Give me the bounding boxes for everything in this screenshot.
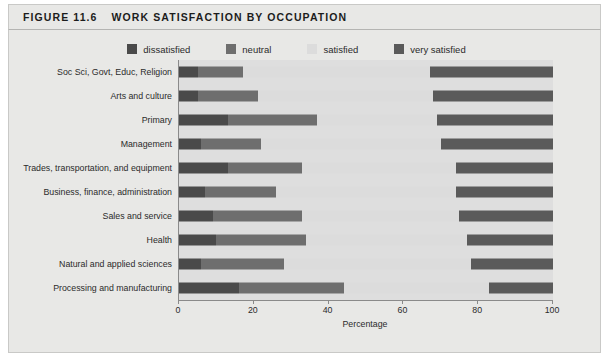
bar-segment-neutral (205, 187, 276, 198)
stacked-bar[interactable] (179, 91, 553, 102)
legend-swatch-icon (307, 44, 317, 54)
y-axis-label: Trades, transportation, and equipment (23, 163, 172, 173)
bar-segment-very-satisfied (471, 259, 553, 270)
stacked-bar[interactable] (179, 139, 553, 150)
legend-swatch-icon (226, 44, 236, 54)
bar-segment-very-satisfied (459, 211, 553, 222)
y-axis-label: Natural and applied sciences (59, 259, 172, 269)
bar-segment-dissatisfied (179, 115, 228, 126)
x-axis-title: Percentage (178, 319, 552, 329)
y-axis-label: Management (121, 139, 172, 149)
legend-item-label: dissatisfied (143, 44, 190, 55)
bar-segment-neutral (198, 67, 243, 78)
stacked-bar[interactable] (179, 115, 553, 126)
bar-segment-dissatisfied (179, 283, 239, 294)
bar-segment-dissatisfied (179, 91, 198, 102)
bar-segment-satisfied (276, 187, 456, 198)
bar-segment-neutral (228, 163, 303, 174)
bar-segment-dissatisfied (179, 211, 213, 222)
x-axis-tick (328, 300, 329, 304)
legend-swatch-icon (127, 44, 137, 54)
y-axis-label: Processing and manufacturing (53, 283, 172, 293)
figure-title-bar: FIGURE 11.6 WORK SATISFACTION BY OCCUPAT… (8, 4, 601, 30)
bar-segment-satisfied (344, 283, 490, 294)
figure-number: FIGURE 11.6 (23, 11, 98, 23)
stacked-bar[interactable] (179, 235, 553, 246)
bar-segment-dissatisfied (179, 187, 205, 198)
bar-segment-dissatisfied (179, 235, 216, 246)
y-axis-label: Soc Sci, Govt, Educ, Religion (57, 67, 172, 77)
legend-item[interactable]: dissatisfied (127, 44, 190, 55)
y-axis-label: Health (147, 235, 172, 245)
bar-segment-neutral (201, 259, 283, 270)
stacked-bar[interactable] (179, 187, 553, 198)
bar-segment-neutral (198, 91, 258, 102)
bar-segment-satisfied (302, 211, 459, 222)
x-axis-tick (552, 300, 553, 304)
bar-segment-satisfied (258, 91, 434, 102)
x-axis-line (178, 300, 552, 301)
y-axis-label: Business, finance, administration (43, 187, 172, 197)
x-axis-tick (253, 300, 254, 304)
stacked-bar[interactable] (179, 163, 553, 174)
chart-plot-area: Soc Sci, Govt, Educ, ReligionArts and cu… (0, 60, 593, 349)
bar-segment-satisfied (284, 259, 471, 270)
bar-segment-dissatisfied (179, 67, 198, 78)
y-axis-label: Arts and culture (110, 91, 172, 101)
bar-segment-very-satisfied (456, 163, 553, 174)
bar-segment-very-satisfied (430, 67, 553, 78)
bar-segment-neutral (228, 115, 318, 126)
bar-segment-very-satisfied (433, 91, 553, 102)
stacked-bar[interactable] (179, 211, 553, 222)
x-axis-tick-label: 0 (176, 305, 181, 315)
x-axis-tick-label: 60 (397, 305, 407, 315)
stacked-bar[interactable] (179, 67, 553, 78)
stacked-bars-container (178, 60, 553, 300)
bar-segment-very-satisfied (467, 235, 553, 246)
bar-segment-very-satisfied (456, 187, 553, 198)
legend-item-label: satisfied (323, 44, 358, 55)
bar-segment-satisfied (261, 139, 441, 150)
bar-segment-neutral (216, 235, 306, 246)
x-axis-tick (477, 300, 478, 304)
figure-title: WORK SATISFACTION BY OCCUPATION (112, 11, 348, 23)
bar-segment-very-satisfied (489, 283, 553, 294)
bar-segment-dissatisfied (179, 259, 201, 270)
stacked-bar[interactable] (179, 283, 553, 294)
chart-legend: dissatisfiedneutralsatisfiedvery satisfi… (0, 40, 593, 58)
x-axis-tick-label: 40 (323, 305, 333, 315)
legend-item-label: neutral (242, 44, 271, 55)
bar-segment-neutral (239, 283, 344, 294)
bar-segment-satisfied (302, 163, 455, 174)
y-axis-label: Sales and service (103, 211, 172, 221)
bar-segment-satisfied (306, 235, 467, 246)
stacked-bar[interactable] (179, 259, 553, 270)
y-axis-category-labels: Soc Sci, Govt, Educ, ReligionArts and cu… (0, 60, 178, 300)
bar-segment-neutral (213, 211, 303, 222)
bar-segment-satisfied (243, 67, 430, 78)
bar-segment-dissatisfied (179, 139, 201, 150)
legend-item[interactable]: very satisfied (394, 44, 465, 55)
x-axis-tick (178, 300, 179, 304)
bar-segment-neutral (201, 139, 261, 150)
x-axis-tick-label: 80 (472, 305, 482, 315)
bar-segment-satisfied (317, 115, 437, 126)
x-axis-tick (402, 300, 403, 304)
x-axis-tick-label: 100 (545, 305, 560, 315)
bar-segment-dissatisfied (179, 163, 228, 174)
legend-item[interactable]: neutral (226, 44, 271, 55)
x-axis-tick-label: 20 (248, 305, 258, 315)
y-axis-label: Primary (142, 115, 172, 125)
bar-segment-very-satisfied (437, 115, 553, 126)
legend-item[interactable]: satisfied (307, 44, 358, 55)
bar-segment-very-satisfied (441, 139, 553, 150)
legend-swatch-icon (394, 44, 404, 54)
legend-item-label: very satisfied (410, 44, 465, 55)
